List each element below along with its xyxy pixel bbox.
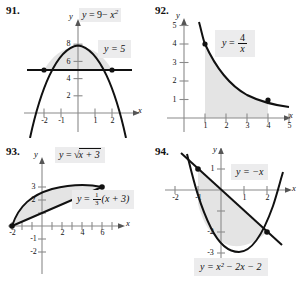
- x-ticklabel-4-93: 4: [78, 228, 87, 237]
- y-ticklabel-2-91: 2: [64, 91, 73, 100]
- eq-93a-eq: =: [66, 149, 72, 160]
- y-ticklabel-4-91: 4: [64, 74, 73, 83]
- figure-sheet: 91.: [0, 0, 299, 285]
- equation-label-sqrt-93: y = √x + 3: [55, 147, 105, 163]
- y-ticklabel-3-92: 3: [170, 58, 179, 67]
- x-ticklabel-5-92: 5: [285, 121, 294, 130]
- fraction-one-third: 1 3: [93, 192, 101, 207]
- graph-91: [0, 0, 149, 142]
- y-axis-label-92: y: [176, 10, 180, 20]
- equation-label-line-93: y = 1 3 (x + 3): [72, 190, 134, 209]
- figure-panel-91: 91.: [0, 0, 149, 142]
- fraction-4-over-x: 4 x: [238, 33, 247, 54]
- y-axis-arrow-94: [218, 147, 224, 154]
- marked-point-4-1-92: [265, 97, 270, 102]
- x-ticklabel-4-92: 4: [264, 121, 273, 130]
- x-ticklabel--1-91: -1: [55, 116, 68, 125]
- y-ticklabel-8-91: 8: [64, 39, 73, 48]
- figure-panel-92: 92.: [149, 0, 299, 142]
- equation-label-line-91: y = 5: [98, 40, 131, 58]
- intersection-point-left-94: [195, 166, 201, 172]
- y-ticklabel-2-93: 2: [29, 195, 38, 204]
- y-ticklabel-1-94: 1: [208, 164, 217, 173]
- eq-93a-lhs: y: [59, 149, 63, 160]
- y-ticklabel-4-92: 4: [170, 39, 179, 48]
- y-ticklabel--3-94: -3: [204, 248, 217, 257]
- marked-point-right-93: [99, 184, 105, 190]
- y-ticklabel-6-91: 6: [64, 57, 73, 66]
- x-ticklabel-2-91: 2: [108, 116, 117, 125]
- eq-92-eq: =: [229, 37, 235, 48]
- y-axis-arrow-92: [181, 18, 187, 25]
- eq-91-exp: 2: [115, 8, 119, 16]
- equation-label-parabola-91: y = 9− x2: [79, 8, 121, 22]
- x-ticklabel-3-92: 3: [243, 121, 252, 130]
- y-axis-label-93: y: [34, 149, 38, 159]
- x-ticklabel-2-94: 2: [263, 193, 272, 202]
- intersection-point-right-94: [264, 229, 270, 235]
- graph-93: [0, 142, 149, 285]
- equation-label-line-94: y = −x: [231, 164, 268, 180]
- y-ticklabel-5-92: 5: [170, 21, 179, 30]
- fraction-denominator: x: [238, 44, 247, 54]
- eq-91-minus: −: [102, 9, 108, 20]
- intersection-point-right-91: [109, 67, 114, 72]
- eq-91-eq: =: [89, 9, 95, 20]
- y-ticklabel-2-92: 2: [170, 76, 179, 85]
- eq-93b-eq: =: [84, 193, 90, 204]
- x-axis-arrow-93: [118, 223, 125, 229]
- x-ticklabel--2-91: -2: [38, 116, 51, 125]
- x-ticklabel--2-93: -2: [6, 228, 19, 237]
- x-axis-label-93: x: [126, 218, 130, 228]
- y-ticklabel-3-93: 3: [29, 182, 38, 191]
- equation-label-parabola-94: y = x² − 2x − 2: [194, 258, 268, 276]
- marked-point-1-4-92: [202, 41, 207, 46]
- x-ticklabel-1-94: 1: [240, 193, 249, 202]
- x-ticklabel-1-91: 1: [91, 116, 100, 125]
- y-ticklabel--2-93: -2: [27, 247, 40, 256]
- intersection-point-left-91: [41, 67, 46, 72]
- x-ticklabel-2-92: 2: [222, 121, 231, 130]
- figure-panel-93: 93.: [0, 142, 149, 285]
- x-ticklabel--2-94: -2: [169, 193, 182, 202]
- radical-expression: √x + 3: [74, 149, 101, 161]
- fraction-denominator-93: 3: [93, 200, 101, 207]
- x-axis-label-91: x: [138, 105, 142, 115]
- y-ticklabel--2-94: -2: [204, 227, 217, 236]
- x-ticklabel-6-93: 6: [98, 228, 107, 237]
- eq-93b-factor: (x + 3): [102, 193, 130, 204]
- y-axis-label-94: y: [213, 144, 217, 154]
- y-axis-arrow-93: [39, 157, 45, 164]
- radicand: x + 3: [79, 148, 101, 160]
- x-axis-arrow-94: [285, 187, 292, 193]
- y-ticklabel--1-93: -1: [27, 234, 40, 243]
- equation-label-hyperbola-92: y = 4 x: [215, 30, 255, 57]
- x-ticklabel-2-93: 2: [58, 228, 67, 237]
- eq-91-lhs: y: [82, 9, 86, 20]
- eq-93b-lhs: y: [77, 193, 81, 204]
- y-ticklabel-1-92: 1: [170, 95, 179, 104]
- x-ticklabel--1-94: -1: [192, 193, 205, 202]
- x-axis-label-92: x: [289, 110, 293, 120]
- y-axis-label-91: y: [69, 11, 73, 21]
- figure-panel-94: 94.: [149, 142, 299, 285]
- x-axis-label-94: x: [292, 183, 296, 193]
- eq-92-lhs: y: [222, 37, 226, 48]
- x-ticklabel-1-92: 1: [201, 121, 210, 130]
